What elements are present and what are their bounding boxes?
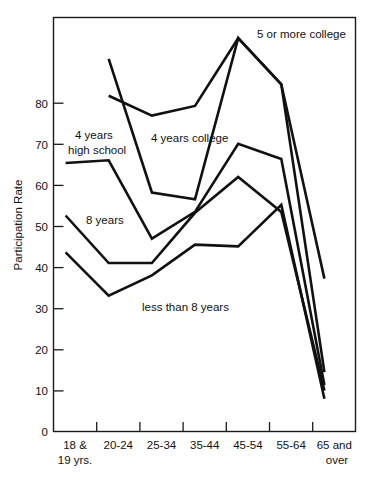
y-tick-label-0: 0 — [42, 426, 48, 438]
y-axis-title: Participation Rate — [12, 180, 24, 271]
x-tick-label-3: 35-44 — [190, 439, 220, 451]
y-axis-ticks — [54, 103, 64, 391]
x-tick-label-0-line2: 19 yrs. — [58, 454, 93, 466]
y-tick-label-70: 70 — [35, 139, 48, 151]
y-tick-label-50: 50 — [35, 221, 48, 233]
x-axis-tick-labels: 18 & 19 yrs. 20-24 25-34 35-44 45-54 55-… — [58, 439, 352, 466]
x-axis-ticks — [97, 422, 313, 432]
y-tick-label-40: 40 — [35, 262, 48, 274]
y-tick-label-60: 60 — [35, 180, 48, 192]
annotation-5-or-more-college: 5 or more college — [257, 28, 346, 40]
series-line-4-years-high-school — [66, 144, 325, 385]
y-tick-label-80: 80 — [35, 98, 48, 110]
series-annotations: 5 or more college 4 years college 4 year… — [68, 28, 346, 313]
x-tick-label-6-line1: 65 and — [317, 439, 352, 451]
y-axis-tick-labels: 0 10 20 30 40 50 60 70 80 — [35, 98, 48, 438]
x-tick-label-1: 20-24 — [104, 439, 134, 451]
y-tick-label-10: 10 — [35, 385, 48, 397]
x-tick-label-0-line1: 18 & — [63, 439, 87, 451]
x-tick-label-6-line2: over — [326, 454, 349, 466]
y-tick-label-30: 30 — [35, 303, 48, 315]
x-tick-label-2: 25-34 — [147, 439, 177, 451]
series-line-8-years — [66, 177, 325, 391]
participation-rate-line-chart: 0 10 20 30 40 50 60 70 80 18 & 19 yrs. 2… — [0, 0, 375, 480]
annotation-8-years: 8 years — [86, 214, 124, 226]
annotation-high-school: high school — [68, 144, 126, 156]
x-tick-label-5: 55-64 — [276, 439, 306, 451]
annotation-4-years: 4 years — [75, 129, 113, 141]
series-line-5-or-more-college — [109, 38, 325, 372]
y-tick-label-20: 20 — [35, 344, 48, 356]
chart-page: 0 10 20 30 40 50 60 70 80 18 & 19 yrs. 2… — [0, 0, 375, 480]
x-tick-label-4: 45-54 — [233, 439, 263, 451]
annotation-less-than-8-years: less than 8 years — [142, 301, 229, 313]
annotation-4-years-college: 4 years college — [151, 132, 228, 144]
